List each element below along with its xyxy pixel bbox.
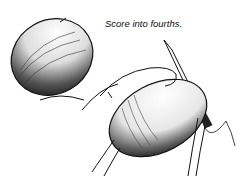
whole-egg-icon bbox=[0, 4, 107, 110]
instruction-caption: Score into fourths. bbox=[105, 18, 182, 29]
illustration-canvas: Score into fourths. bbox=[0, 0, 240, 176]
